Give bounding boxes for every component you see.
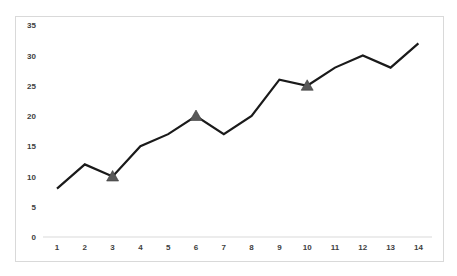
y-tick-label: 25 [27, 82, 36, 91]
x-tick-label: 11 [331, 243, 340, 252]
x-tick-label: 12 [358, 243, 367, 252]
y-tick-label: 15 [27, 142, 36, 151]
x-tick-label: 5 [166, 243, 171, 252]
x-tick-label: 1 [55, 243, 60, 252]
y-tick-label: 0 [32, 233, 37, 242]
y-tick-label: 5 [32, 203, 37, 212]
x-tick-label: 3 [110, 243, 115, 252]
x-tick-label: 14 [414, 243, 423, 252]
x-tick-label: 9 [277, 243, 282, 252]
x-tick-label: 6 [194, 243, 199, 252]
series-line [57, 43, 418, 188]
y-tick-label: 20 [27, 112, 36, 121]
x-tick-label: 13 [386, 243, 395, 252]
y-tick-label: 10 [27, 173, 36, 182]
line-chart: 051015202530351234567891011121314 [0, 0, 457, 276]
x-tick-label: 8 [249, 243, 254, 252]
x-tick-label: 2 [83, 243, 88, 252]
y-tick-label: 35 [27, 21, 36, 30]
y-tick-label: 30 [27, 52, 36, 61]
x-tick-label: 10 [303, 243, 312, 252]
x-tick-label: 7 [222, 243, 227, 252]
x-tick-label: 4 [138, 243, 143, 252]
triangle-marker-icon [190, 110, 202, 121]
